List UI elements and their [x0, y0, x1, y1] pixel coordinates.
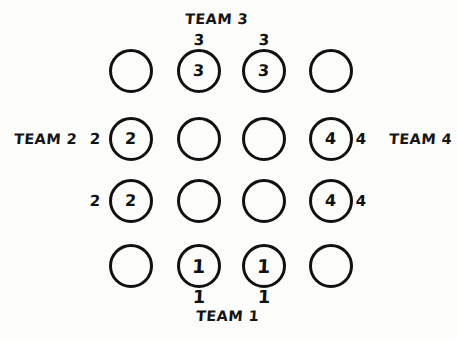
grid-cell-mark: 1 — [257, 257, 271, 276]
team-label-bottom: TEAM 1 — [195, 309, 259, 324]
grid-cell-mark: 2 — [125, 193, 137, 209]
grid-cell-r1c3[interactable]: 3 — [242, 49, 286, 93]
grid-cell-mark: 3 — [258, 63, 270, 79]
edge-mark-left-row2: 2 — [84, 132, 107, 147]
grid-cell-r1c4[interactable] — [309, 49, 353, 93]
edge-mark-top-col3: 3 — [253, 33, 276, 48]
grid-cell-mark: 4 — [325, 131, 337, 147]
grid-cell-mark: 3 — [193, 63, 205, 79]
grid-cell-r3c4[interactable]: 4 — [309, 179, 353, 223]
grid-cell-r2c1[interactable]: 2 — [109, 117, 153, 161]
grid-cell-r2c4[interactable]: 4 — [309, 117, 353, 161]
edge-mark-right-row2: 4 — [350, 132, 373, 147]
edge-mark-bottom-col2: 1 — [188, 288, 211, 306]
grid-cell-r1c1[interactable] — [109, 49, 153, 93]
edge-mark-top-col2: 3 — [188, 33, 211, 48]
edge-mark-left-row3: 2 — [84, 194, 107, 209]
grid-cell-mark: 1 — [192, 257, 206, 276]
grid-cell-r4c2[interactable]: 1 — [177, 244, 221, 288]
grid-cell-r3c2[interactable] — [177, 179, 221, 223]
grid-cell-r1c2[interactable]: 3 — [177, 49, 221, 93]
edge-mark-bottom-col3: 1 — [253, 288, 276, 306]
grid-cell-r3c1[interactable]: 2 — [109, 179, 153, 223]
grid-cell-mark: 4 — [325, 193, 337, 209]
grid-cell-r2c2[interactable] — [177, 117, 221, 161]
team-label-top: TEAM 3 — [184, 12, 248, 27]
grid-cell-r2c3[interactable] — [242, 117, 286, 161]
grid-cell-mark: 2 — [125, 131, 137, 147]
grid-cell-r4c1[interactable] — [109, 244, 153, 288]
team-grid-diagram: TEAM 3 TEAM 2 TEAM 4 TEAM 1 3 3 1 1 2 2 … — [0, 0, 457, 341]
team-label-right: TEAM 4 — [388, 132, 452, 147]
edge-mark-right-row3: 4 — [350, 194, 373, 209]
grid-cell-r3c3[interactable] — [242, 179, 286, 223]
team-label-left: TEAM 2 — [13, 132, 77, 147]
grid-cell-r4c4[interactable] — [309, 244, 353, 288]
grid-cell-r4c3[interactable]: 1 — [242, 244, 286, 288]
